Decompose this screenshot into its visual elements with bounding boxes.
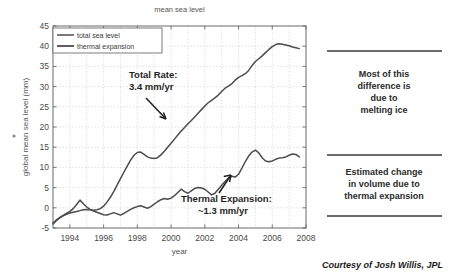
x-tick-labels: 19941996199820002002200420062008 (60, 233, 315, 243)
x-tick-label: 2000 (162, 233, 181, 243)
credit-line: Courtesy of Josh Willis, JPL (322, 260, 443, 270)
y-tick-label: 5 (44, 183, 49, 193)
side-note-top-line-3: due to (371, 93, 398, 103)
annotation-total-rate-arrow-line (146, 98, 166, 119)
x-tick-label: 1994 (60, 233, 79, 243)
x-tick-label: 2008 (297, 233, 316, 243)
x-tick-label: 2006 (263, 233, 282, 243)
y-tick-label: -5 (41, 223, 49, 233)
side-note-bottom-line-3: thermal expansion (344, 191, 424, 201)
y-tick-label: 20 (40, 122, 50, 132)
annotation-total-rate-line-2: 3.4 mm/yr (129, 81, 174, 92)
legend-label-total-sea-level: total sea level (77, 32, 120, 39)
y-tick-label: 30 (40, 82, 50, 92)
decorative-dot (12, 134, 15, 137)
y-tick-label: 35 (40, 61, 50, 71)
annotation-total-rate: Total Rate: 3.4 mm/yr (129, 69, 177, 119)
legend: total sea level thermal expansion (53, 28, 162, 53)
annotation-total-rate-line-1: Total Rate: (129, 69, 177, 80)
x-axis-label: year (172, 247, 188, 256)
x-tick-label: 1998 (128, 233, 147, 243)
annotation-thermal-arrow-line (219, 175, 231, 193)
sea-level-chart: 19941996199820002002200420062008 -505101… (0, 0, 451, 277)
y-axis-label: global mean sea level (mm) (21, 78, 30, 177)
y-tick-label: 15 (40, 142, 50, 152)
chart-title: mean sea level (154, 5, 205, 14)
x-tick-label: 1996 (94, 233, 113, 243)
figure-root: 19941996199820002002200420062008 -505101… (0, 0, 451, 277)
x-tick-label: 2004 (229, 233, 248, 243)
annotation-thermal-line-1: Thermal Expansion: (181, 193, 272, 204)
y-tick-label: 40 (40, 41, 50, 51)
side-note-bottom-line-2: in volume due to (348, 179, 420, 189)
side-note-top-line-4: melting ice (360, 105, 407, 115)
y-tick-label: 25 (40, 102, 50, 112)
side-note-bottom-line-1: Estimated change (345, 167, 422, 177)
series-line-thermal-expansion (53, 150, 299, 223)
legend-label-thermal-expansion: thermal expansion (77, 43, 134, 51)
y-tick-label: 0 (44, 203, 49, 213)
side-note-top-line-1: Most of this (359, 69, 410, 79)
side-panel: Most of this difference is due to meltin… (327, 51, 442, 216)
y-tick-labels: -5051015202530354045 (40, 21, 50, 233)
annotation-thermal-line-2: ~1.3 mm/yr (198, 205, 248, 216)
annotation-thermal-expansion: Thermal Expansion: ~1.3 mm/yr (181, 175, 272, 216)
y-tick-label: 10 (40, 162, 50, 172)
x-tick-label: 2002 (195, 233, 214, 243)
y-tick-label: 45 (40, 21, 50, 31)
side-note-top-line-2: difference is (357, 81, 410, 91)
